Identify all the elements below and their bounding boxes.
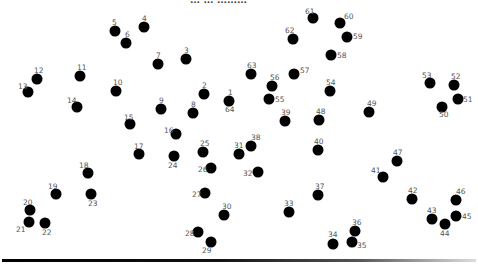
dot-label-40: 40: [314, 138, 324, 146]
dot-30[interactable]: [219, 210, 230, 221]
dot-9[interactable]: [156, 104, 167, 115]
dot-43[interactable]: [427, 214, 438, 225]
dot-58[interactable]: [326, 50, 337, 61]
dot-label-62: 62: [285, 27, 295, 35]
dot-label-14: 14: [67, 97, 77, 105]
dot-label-51: 51: [463, 96, 473, 104]
dot-35[interactable]: [347, 237, 358, 248]
dot-label-39: 39: [281, 109, 291, 117]
dot-5[interactable]: [110, 26, 121, 37]
dot-label-26: 26: [198, 166, 208, 174]
dot-label-16: 16: [164, 127, 174, 135]
dot-label-41: 41: [371, 167, 381, 175]
dot-33[interactable]: [284, 207, 295, 218]
dot-label-38: 38: [251, 134, 261, 142]
dot-31[interactable]: [234, 149, 245, 160]
dot-40[interactable]: [313, 145, 324, 156]
dot-22[interactable]: [40, 218, 51, 229]
dot-7[interactable]: [153, 59, 164, 70]
dot-label-54: 54: [326, 79, 336, 87]
dot-37[interactable]: [313, 190, 324, 201]
dot-32[interactable]: [253, 167, 264, 178]
dot-48[interactable]: [314, 115, 325, 126]
dot-label-59: 59: [353, 33, 363, 41]
dot-label-29: 29: [202, 247, 212, 255]
dot-label-47: 47: [393, 149, 403, 157]
dot-label-23: 23: [88, 200, 98, 208]
dot-11[interactable]: [75, 71, 86, 82]
dot-label-25: 25: [200, 140, 210, 148]
dot-10[interactable]: [111, 86, 122, 97]
dot-label-28: 28: [185, 230, 195, 238]
dot-25[interactable]: [198, 147, 209, 158]
dot-3[interactable]: [181, 54, 192, 65]
dot-label-6: 6: [125, 31, 130, 39]
dot-46[interactable]: [451, 195, 462, 206]
dot-47[interactable]: [392, 156, 403, 167]
dot-label-4: 4: [142, 15, 147, 23]
dot-label-17: 17: [134, 143, 144, 151]
dot-to-dot-board: … … ……… 12345678910111213141516171819202…: [0, 0, 478, 264]
dot-54[interactable]: [325, 86, 336, 97]
dot-49[interactable]: [364, 107, 375, 118]
dot-2[interactable]: [199, 89, 210, 100]
dot-label-60: 60: [344, 13, 354, 21]
dot-62[interactable]: [288, 34, 299, 45]
dot-44[interactable]: [440, 219, 451, 230]
dot-label-13: 13: [18, 83, 28, 91]
bottom-rule: [2, 259, 476, 262]
dot-52[interactable]: [449, 80, 460, 91]
dot-label-48: 48: [316, 108, 326, 116]
dot-label-37: 37: [315, 183, 325, 191]
dot-label-44: 44: [440, 230, 450, 238]
dot-label-42: 42: [408, 187, 418, 195]
dot-6[interactable]: [121, 38, 132, 49]
dot-42[interactable]: [407, 194, 418, 205]
dot-51[interactable]: [453, 94, 464, 105]
dot-label-15: 15: [124, 114, 134, 122]
dot-56[interactable]: [267, 81, 278, 92]
dot-label-3: 3: [184, 47, 189, 55]
dot-label-52: 52: [451, 73, 461, 81]
dot-59[interactable]: [342, 32, 353, 43]
dot-label-53: 53: [422, 72, 432, 80]
dot-36[interactable]: [350, 226, 361, 237]
dot-38[interactable]: [246, 141, 257, 152]
dot-label-43: 43: [427, 207, 437, 215]
dot-label-20: 20: [23, 199, 33, 207]
dot-label-49: 49: [367, 100, 377, 108]
dot-label-2: 2: [202, 82, 207, 90]
dot-label-55: 55: [275, 96, 285, 104]
dot-label-63: 63: [247, 62, 257, 70]
dot-57[interactable]: [289, 69, 300, 80]
dot-label-8: 8: [191, 101, 196, 109]
dot-55[interactable]: [264, 94, 275, 105]
dot-24[interactable]: [169, 151, 180, 162]
dot-label-34: 34: [328, 231, 338, 239]
dot-label-5: 5: [112, 19, 117, 27]
dot-45[interactable]: [451, 211, 462, 222]
dot-label-45: 45: [462, 213, 472, 221]
dot-label-50: 50: [439, 111, 449, 119]
dot-label-21: 21: [16, 226, 26, 234]
dot-4[interactable]: [139, 22, 150, 33]
dot-label-22: 22: [42, 229, 52, 237]
dot-label-12: 12: [34, 67, 44, 75]
dot-label-58: 58: [337, 52, 347, 60]
dot-label-19: 19: [48, 183, 58, 191]
dot-label-32: 32: [243, 170, 253, 178]
dot-39[interactable]: [280, 116, 291, 127]
dot-label-10: 10: [113, 79, 123, 87]
dot-label-33: 33: [284, 200, 294, 208]
dot-8[interactable]: [188, 108, 199, 119]
dot-label-35: 35: [357, 242, 367, 250]
dot-12[interactable]: [32, 74, 43, 85]
dot-label-27: 27: [192, 191, 202, 199]
dot-34[interactable]: [328, 239, 339, 250]
dot-label-56: 56: [270, 74, 280, 82]
dot-label-30: 30: [222, 203, 232, 211]
dot-23[interactable]: [86, 189, 97, 200]
dot-63[interactable]: [246, 69, 257, 80]
dot-label-36: 36: [352, 219, 362, 227]
dot-label-9: 9: [159, 97, 164, 105]
